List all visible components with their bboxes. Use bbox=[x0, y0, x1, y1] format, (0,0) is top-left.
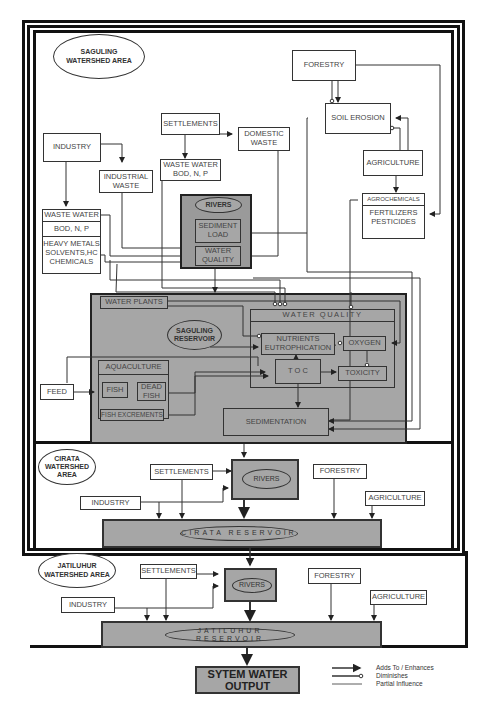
forestry-box: FORESTRY bbox=[292, 50, 356, 81]
saguling-rivers-label: RIVERS bbox=[195, 197, 242, 213]
legend-partial-influence: Partial Influence bbox=[376, 680, 434, 688]
jatiluhur-watershed-label: JATILUHUR WATERSHED AREA bbox=[38, 553, 116, 588]
cirata-rivers-label: RIVERS bbox=[242, 469, 291, 489]
saguling-watershed-label: SAGULING WATERSHED AREA bbox=[53, 34, 145, 79]
waste-water-label: WASTE WATER bbox=[43, 210, 100, 222]
legend-diminishes: Diminishes bbox=[376, 672, 434, 680]
jatiluhur-forestry-box: FORESTRY bbox=[308, 568, 361, 584]
agriculture-box: AGRICULTURE bbox=[363, 150, 423, 176]
settlements-box: SETTLEMENTS bbox=[161, 113, 220, 135]
industry-box: INDUSTRY bbox=[43, 133, 101, 162]
waste-water-bod-box: WASTE WATER BOD, N, P bbox=[160, 159, 221, 181]
soil-erosion-box: SOIL EROSION bbox=[325, 103, 391, 134]
sedimentation-box: SEDIMENTATION bbox=[223, 408, 329, 436]
saguling-reservoir-label: SAGULING RESERVOIR bbox=[167, 320, 222, 350]
dead-fish-box: DEAD FISH bbox=[137, 382, 166, 401]
water-quality-small-box: WATER QUALITY bbox=[195, 246, 241, 266]
feed-box: FEED bbox=[40, 384, 74, 400]
sediment-load-box: SEDIMENT LOAD bbox=[195, 219, 241, 243]
aquaculture-label: AQUACULTURE bbox=[99, 361, 168, 375]
jatiluhur-rivers-label: RIVERS bbox=[232, 578, 272, 593]
cirata-reservoir-label: CIRATA RESERVOIR bbox=[180, 526, 298, 541]
industrial-waste-box: INDUSTRIAL WASTE bbox=[99, 170, 153, 193]
cirata-watershed-label: CIRATA WATERSHED AREA bbox=[38, 449, 96, 485]
fish-excrements-box: FISH EXCREMENTS bbox=[100, 409, 164, 421]
jatiluhur-industry-box: INDUSTRY bbox=[61, 597, 115, 613]
cirata-agriculture-box: AGRICULTURE bbox=[365, 491, 425, 506]
fish-box: FISH bbox=[102, 382, 128, 398]
agrochemicals-box: AGROCHEMICALS FERTILIZERS PESTICIDES bbox=[362, 193, 425, 239]
water-quality-label: WATER QUALITY bbox=[250, 310, 395, 322]
toxicity-box: TOXICITY bbox=[338, 366, 387, 381]
nutrients-box: NUTRIENTS EUTROPHICATION bbox=[261, 333, 335, 355]
bod-label: BOD, N, P bbox=[43, 222, 100, 238]
oxygen-box: OXYGEN bbox=[343, 336, 386, 351]
legend-adds-to: Adds To / Enhances bbox=[376, 664, 434, 672]
water-plants-box: WATER PLANTS bbox=[100, 296, 168, 309]
cirata-forestry-box: FORESTRY bbox=[313, 464, 367, 479]
fertilizers-label: FERTILIZERS PESTICIDES bbox=[363, 206, 424, 238]
agrochemicals-label: AGROCHEMICALS bbox=[363, 194, 424, 206]
waste-water-stack: WASTE WATER BOD, N, P HEAVY METALS SOLVE… bbox=[42, 209, 101, 274]
cirata-industry-box: INDUSTRY bbox=[80, 496, 141, 510]
jatiluhur-reservoir-label: JATILUHUR RESERVOIR bbox=[165, 628, 295, 642]
system-water-output-box: SYTEM WATER OUTPUT bbox=[195, 666, 300, 694]
jatiluhur-settlements-box: SETTLEMENTS bbox=[140, 564, 197, 579]
toc-box: T O C bbox=[275, 359, 321, 384]
legend: Adds To / Enhances Diminishes Partial In… bbox=[376, 664, 434, 688]
cirata-settlements-box: SETTLEMENTS bbox=[150, 464, 213, 480]
domestic-waste-box: DOMESTIC WASTE bbox=[238, 127, 290, 151]
heavy-metals-label: HEAVY METALS SOLVENTS,HC CHEMICALS bbox=[43, 237, 100, 266]
jatiluhur-agriculture-box: AGRICULTURE bbox=[370, 590, 427, 605]
